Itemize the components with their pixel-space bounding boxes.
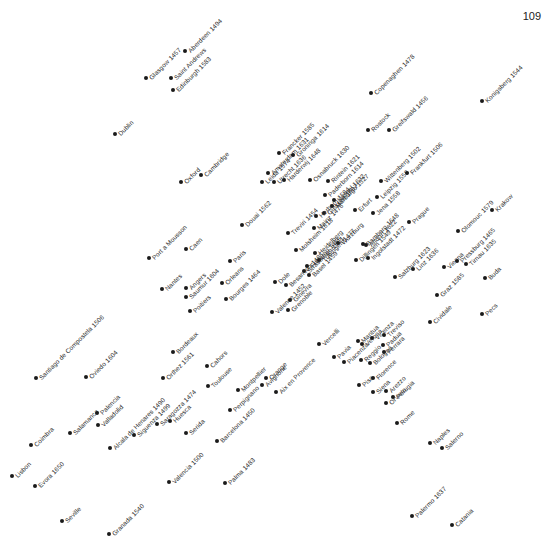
city-label: Coimbra <box>33 425 56 448</box>
city-label: Greifswald 1456 <box>391 94 430 133</box>
city-label: Lisbon <box>14 460 33 479</box>
city-label: Seville <box>64 505 83 524</box>
city-label: Cividale <box>432 303 454 325</box>
universities-map: Glasgow 1457Aberdeen 1494Saint AndrewsEd… <box>0 0 549 559</box>
city-label: Erfurt <box>357 197 373 213</box>
city-label: Caen <box>188 236 204 252</box>
city-label: Cahors <box>209 349 229 369</box>
city-label: Port a Mousson <box>151 223 189 261</box>
city-label: Palma 1483 <box>227 456 257 486</box>
city-label: Serida <box>188 418 206 436</box>
city-label: Catania <box>454 507 475 528</box>
city-label: Prague <box>411 205 431 225</box>
city-label: Paris <box>232 248 248 264</box>
city-label: Dublin <box>117 119 135 137</box>
city-label: Oviedo 1604 <box>88 349 119 380</box>
city-label: Nantes <box>164 272 184 292</box>
city-label: Cambridge <box>203 150 231 178</box>
city-label: Rome <box>399 409 416 426</box>
city-label: Graz 1585 <box>439 271 466 298</box>
city-label: Valencia 1500 <box>171 451 205 485</box>
city-label: Douai 1562 <box>244 199 273 228</box>
city-label: Buda <box>487 265 503 281</box>
city-label: Palermo 1637 <box>414 485 448 519</box>
city-label: Vercelli <box>321 327 341 347</box>
city-label: Krakow <box>494 193 514 213</box>
city-label: Bordeaux <box>175 330 200 355</box>
city-label: Copenaghen 1478 <box>373 53 416 96</box>
city-label: Granada 1540 <box>111 502 146 537</box>
city-label: Konigsberg 1544 <box>484 64 524 104</box>
city-label: Orthez 1561 <box>165 350 196 381</box>
city-label: Pecs <box>484 302 499 317</box>
city-label: Evora 1650 <box>37 460 66 489</box>
